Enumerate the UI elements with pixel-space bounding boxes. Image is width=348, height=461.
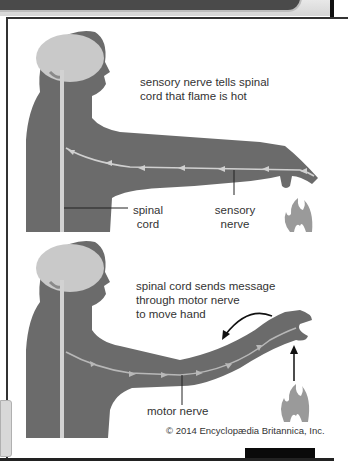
spinal-cord xyxy=(60,70,64,232)
copyright-text: © 2014 Encyclopædia Britannica, Inc. xyxy=(166,425,325,436)
bottom-caption-line1: spinal cord sends message xyxy=(136,279,275,293)
label-nerve: nerve xyxy=(212,217,258,231)
brain-icon xyxy=(36,244,104,292)
top-figure xyxy=(26,31,318,232)
bottom-caption-line2: through motor nerve xyxy=(136,293,240,307)
label-motor-nerve: motor nerve xyxy=(147,404,208,418)
bottom-caption-line3: to move hand xyxy=(136,307,206,321)
label-cord: cord xyxy=(130,217,166,231)
flame-icon xyxy=(285,198,313,232)
label-spinal: spinal xyxy=(130,203,166,217)
side-scroll-tab[interactable] xyxy=(0,400,12,457)
flame-icon xyxy=(281,384,309,422)
brain-icon xyxy=(36,34,104,82)
spinal-cord xyxy=(60,280,64,438)
top-caption-line2: cord that flame is hot xyxy=(140,89,247,103)
top-caption-line1: sensory nerve tells spinal xyxy=(140,75,269,89)
label-sensory: sensory xyxy=(212,203,258,217)
